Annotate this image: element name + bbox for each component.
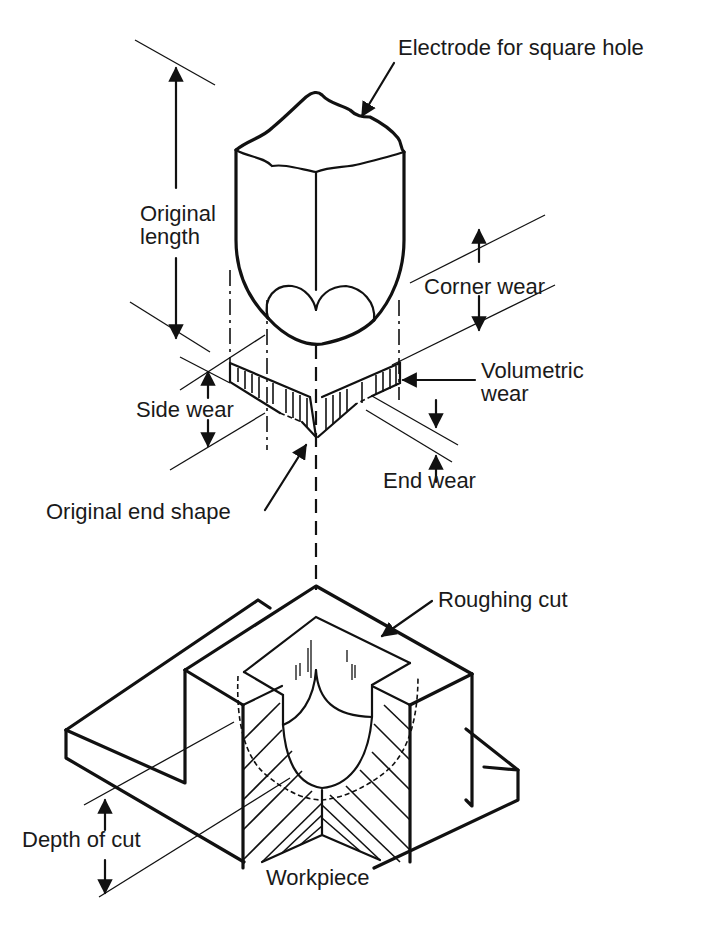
label-roughing-cut: Roughing cut	[438, 588, 568, 611]
label-depth-of-cut: Depth of cut	[22, 828, 141, 851]
label-workpiece: Workpiece	[266, 866, 370, 889]
label-end-wear: End wear	[383, 469, 476, 492]
roughing-cut-leader	[382, 601, 432, 636]
label-volumetric-wear: Volumetric wear	[481, 359, 584, 405]
label-side-wear: Side wear	[136, 398, 234, 421]
label-original-length: Original length	[140, 202, 216, 248]
workpiece	[66, 586, 518, 868]
label-original-length-line1: Original	[140, 202, 216, 225]
label-corner-wear: Corner wear	[424, 275, 545, 298]
label-volumetric-wear-line2: wear	[481, 382, 584, 405]
original-length-dimension	[130, 40, 215, 352]
label-electrode: Electrode for square hole	[398, 36, 644, 59]
wear-band-right	[318, 363, 400, 437]
original-end-shape-leader	[265, 445, 306, 510]
electrode-leader	[362, 63, 394, 116]
label-original-length-line2: length	[140, 225, 216, 248]
electrode	[236, 93, 404, 345]
label-original-end-shape: Original end shape	[46, 500, 231, 523]
depth-of-cut-dimension	[84, 722, 290, 897]
label-volumetric-wear-line1: Volumetric	[481, 359, 584, 382]
diagram-canvas	[0, 0, 707, 935]
